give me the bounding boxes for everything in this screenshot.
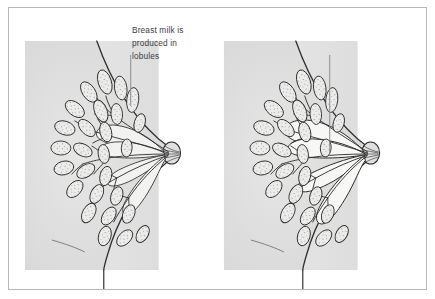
anatomy-figure: Breast milk is produced in lobules — [0, 0, 435, 299]
panel-ducts: Ducts collect milk and carry it to the n… — [218, 8, 427, 289]
breast-svg-right — [218, 8, 427, 289]
figure-frame: Breast milk is produced in lobules — [8, 7, 427, 290]
label-lobules: Breast milk is produced in lobules — [132, 24, 218, 64]
breast-diagram-right — [218, 8, 427, 289]
panel-lobules: Breast milk is produced in lobules — [9, 8, 218, 289]
nipple-left — [163, 142, 181, 164]
